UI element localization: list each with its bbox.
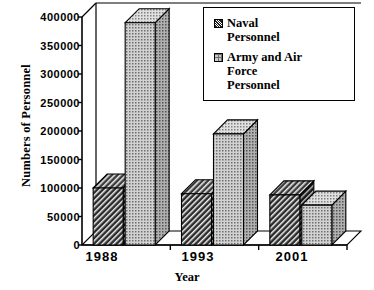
legend-army-line3: Personnel <box>227 78 280 92</box>
y-axis-top-connector <box>82 3 96 17</box>
naval-bar-1988-front <box>93 188 123 245</box>
legend-label-army-air-force: Army and Air Force Personnel <box>227 50 302 92</box>
chart-legend: Naval Personnel Army and Air Force Perso… <box>203 7 355 101</box>
army-air-force-bar-1993-front <box>214 134 244 245</box>
legend-item-army-air-force: Army and Air Force Personnel <box>214 50 348 92</box>
legend-army-line1: Army and Air <box>227 50 302 64</box>
naval-bar-1993-front <box>182 194 212 245</box>
army-air-force-bar-1993-side <box>244 120 258 245</box>
legend-army-line2: Force <box>227 64 257 78</box>
legend-swatch-army-air-force-icon <box>214 53 223 62</box>
legend-naval-line1: Naval <box>227 16 258 30</box>
legend-item-naval: Naval Personnel <box>214 16 348 44</box>
legend-naval-line2: Personnel <box>227 30 280 44</box>
army-air-force-bar-1988-side <box>155 9 169 245</box>
bar-chart-figure: Numbers of Personnel Year 05000010000015… <box>0 0 374 290</box>
army-air-force-bar-1988-front <box>125 23 155 245</box>
legend-label-naval: Naval Personnel <box>227 16 280 44</box>
naval-bar-2001-front <box>270 195 300 245</box>
legend-swatch-naval-icon <box>214 19 223 28</box>
army-air-force-bar-2001-front <box>302 205 332 245</box>
